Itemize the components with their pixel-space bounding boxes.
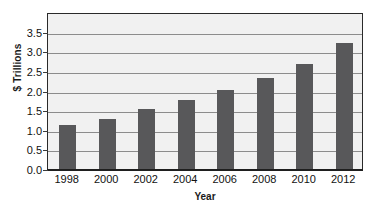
bar [99, 119, 116, 169]
bar [257, 78, 274, 169]
y-axis-tick-label: 1.0 [14, 125, 42, 137]
y-axis-tick-label: 1.5 [14, 105, 42, 117]
y-axis-tick-label: 2.0 [14, 86, 42, 98]
y-axis-tick-label: 0.5 [14, 144, 42, 156]
bar [178, 100, 195, 169]
bar [138, 109, 155, 169]
bar [296, 64, 313, 169]
y-axis-tick-label-group: 0.00.51.01.52.02.53.03.5 [14, 0, 42, 213]
x-axis-tick-label: 2002 [126, 173, 166, 185]
plot-area [47, 13, 363, 170]
x-axis-line [47, 169, 363, 171]
x-axis-tick-label: 2008 [244, 173, 284, 185]
y-axis-tick-mark [43, 52, 48, 53]
x-axis-tick-label-group: 19982000200220042006200820102012 [47, 173, 363, 189]
y-axis-tick-mark [43, 33, 48, 34]
x-axis-title: Year [47, 191, 363, 202]
bar-chart-figure: $ Trillions 0.00.51.01.52.02.53.03.5 199… [0, 0, 375, 213]
x-axis-tick-label: 1998 [47, 173, 87, 185]
x-axis-tick-label: 2006 [205, 173, 245, 185]
y-axis-tick-label: 3.5 [14, 27, 42, 39]
x-axis-tick-label: 2000 [86, 173, 126, 185]
y-axis-tick-mark [43, 150, 48, 151]
x-axis-tick-label: 2010 [284, 173, 324, 185]
y-axis-tick-label: 2.5 [14, 66, 42, 78]
y-axis-tick-label: 0.0 [14, 164, 42, 176]
x-axis-tick-label: 2012 [323, 173, 363, 185]
y-axis-tick-mark [43, 72, 48, 73]
y-axis-tick-mark [43, 131, 48, 132]
y-axis-tick-mark [43, 92, 48, 93]
bar [336, 43, 353, 169]
y-axis-tick-label: 3.0 [14, 46, 42, 58]
x-axis-tick-label: 2004 [165, 173, 205, 185]
y-axis-tick-mark [43, 170, 48, 171]
bar [59, 125, 76, 169]
bar [217, 90, 234, 169]
bars-layer [48, 14, 362, 169]
y-axis-tick-mark [43, 111, 48, 112]
